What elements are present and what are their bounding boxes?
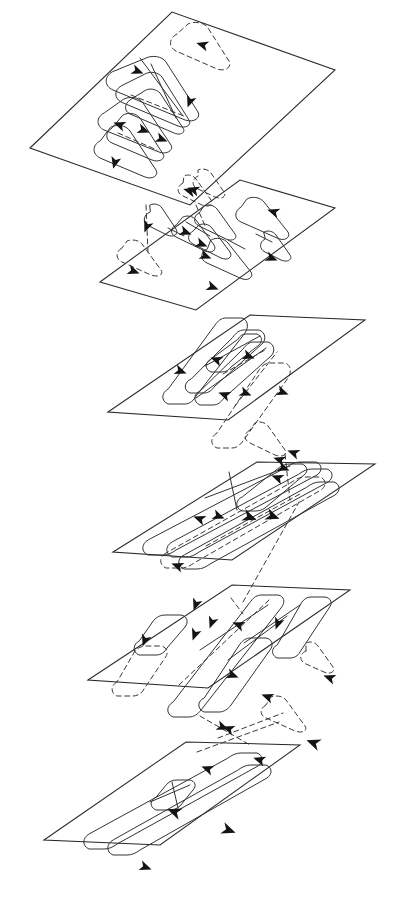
- flow-arrow: [304, 735, 321, 751]
- layer-6: [44, 713, 300, 874]
- layer-2-tracks: [117, 175, 291, 279]
- flow-arrow: [127, 265, 142, 279]
- stacked-layer-diagram: [0, 0, 418, 920]
- track-dashed: [261, 696, 306, 732]
- track-dashed: [131, 95, 184, 116]
- track: [244, 605, 300, 643]
- flow-arrow: [195, 38, 209, 51]
- flow-arrow: [217, 388, 232, 402]
- track: [116, 72, 190, 127]
- flow-arrow: [206, 281, 221, 295]
- layer-6-arrows: [139, 722, 267, 874]
- flow-arrow: [170, 559, 185, 573]
- track-dashed: [301, 642, 334, 673]
- layer-4: [113, 446, 375, 642]
- flow-arrow: [241, 509, 258, 525]
- track-dashed: [193, 169, 225, 198]
- layer-1: [30, 12, 335, 205]
- track: [167, 469, 332, 557]
- layer-4-tracks: [143, 462, 339, 614]
- flow-arrow: [188, 628, 202, 643]
- layer-3: [108, 315, 365, 500]
- track-dashed: [112, 646, 167, 696]
- track-dashed: [235, 352, 277, 406]
- track-dashed: [231, 598, 243, 614]
- track-dashed: [179, 600, 269, 685]
- flow-arrow: [252, 753, 267, 766]
- flow-arrow: [192, 512, 207, 526]
- flow-arrow: [200, 762, 215, 776]
- layer-5: [88, 585, 350, 751]
- layer-5-tracks: [112, 595, 334, 745]
- track: [143, 462, 321, 555]
- flow-arrow: [189, 598, 203, 613]
- track: [84, 753, 262, 849]
- track: [236, 197, 289, 239]
- flow-arrow: [212, 510, 227, 524]
- track-dashed: [212, 363, 291, 448]
- flow-arrow: [137, 124, 152, 138]
- flow-arrow: [286, 446, 301, 460]
- layer-2: [100, 175, 335, 310]
- track-dashed: [200, 716, 250, 745]
- track: [273, 597, 332, 658]
- flow-arrow: [139, 861, 154, 875]
- track-dashed: [197, 722, 279, 752]
- track: [94, 125, 157, 178]
- track: [150, 785, 190, 802]
- track: [98, 97, 172, 153]
- track-dashed: [218, 713, 283, 738]
- track-dashed: [285, 454, 290, 500]
- track: [189, 224, 231, 259]
- layer-6-tracks: [84, 713, 283, 855]
- flow-arrow: [174, 365, 189, 379]
- figure-canvas: [0, 0, 418, 920]
- track-dashed: [245, 422, 286, 456]
- track-dashed: [117, 240, 162, 276]
- track: [134, 615, 187, 655]
- layer-2-arrows: [127, 183, 281, 294]
- track: [195, 205, 236, 240]
- layer-1-tracks: [94, 22, 230, 198]
- flow-arrow: [264, 508, 281, 524]
- flow-arrow: [205, 616, 219, 631]
- flow-arrow: [130, 64, 145, 78]
- layer-1-plane: [30, 12, 335, 205]
- track: [261, 231, 291, 261]
- track: [151, 780, 195, 810]
- layer-2-plane: [100, 180, 335, 310]
- flow-arrow: [220, 822, 237, 838]
- track: [229, 472, 237, 510]
- track: [228, 240, 245, 249]
- flow-arrow: [108, 156, 121, 170]
